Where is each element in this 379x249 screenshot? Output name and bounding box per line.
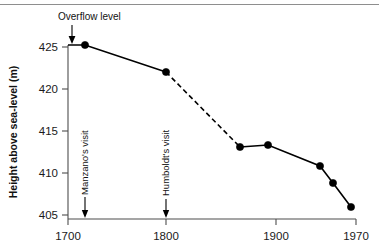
- series-segment-early: [68, 45, 166, 72]
- data-point: [81, 41, 88, 48]
- y-tick-label-410: 410: [39, 167, 58, 179]
- lake-level-series: [68, 41, 355, 210]
- overflow-level-label: Overflow level: [58, 11, 121, 22]
- series-segment-dashed: [166, 72, 240, 147]
- annotation-humboldt-visit: Humboldt's visit: [160, 129, 171, 218]
- x-tick-label-1800: 1800: [153, 230, 179, 242]
- manzano-visit-arrow-head: [82, 210, 88, 218]
- humboldt-visit-label: Humboldt's visit: [160, 129, 171, 196]
- data-point: [329, 179, 336, 186]
- series-segment-modern: [240, 145, 351, 207]
- data-point: [162, 68, 169, 75]
- x-tick-label-1900: 1900: [263, 230, 289, 242]
- data-point: [347, 203, 354, 210]
- annotation-manzano-visit: Manzano's visit: [79, 130, 90, 218]
- y-axis-title: Height above sea-level (m): [7, 66, 19, 198]
- y-tick-label-420: 420: [39, 83, 58, 95]
- chart-figure: 425 420 415 410 405 Height above sea-lev…: [0, 0, 379, 249]
- x-tick-label-1970: 1970: [343, 230, 369, 242]
- data-point: [236, 143, 243, 150]
- manzano-visit-label: Manzano's visit: [79, 130, 90, 195]
- x-axis: 1700 1800 1900 1970: [55, 219, 369, 242]
- y-tick-label-425: 425: [39, 41, 58, 53]
- annotation-overflow-level: Overflow level: [58, 11, 121, 44]
- y-axis: 425 420 415 410 405 Height above sea-lev…: [7, 41, 68, 221]
- humboldt-visit-arrow-head: [163, 210, 169, 218]
- y-tick-label-415: 415: [39, 125, 58, 137]
- y-tick-label-405: 405: [39, 209, 58, 221]
- overflow-level-arrow-head: [69, 36, 76, 44]
- x-tick-label-1700: 1700: [55, 230, 81, 242]
- data-point: [264, 141, 271, 148]
- data-point: [316, 162, 323, 169]
